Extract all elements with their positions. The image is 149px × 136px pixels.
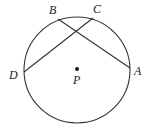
chord-ba bbox=[58, 19, 130, 68]
label-b: B bbox=[49, 3, 57, 17]
chord-cd bbox=[24, 18, 93, 72]
center-point-p bbox=[75, 67, 79, 71]
label-a: A bbox=[133, 64, 142, 78]
label-d: D bbox=[8, 68, 18, 82]
circle-chord-diagram: B C D A P bbox=[0, 0, 149, 136]
label-p: P bbox=[72, 73, 81, 87]
label-c: C bbox=[93, 2, 102, 16]
diagram-svg: B C D A P bbox=[0, 0, 149, 136]
